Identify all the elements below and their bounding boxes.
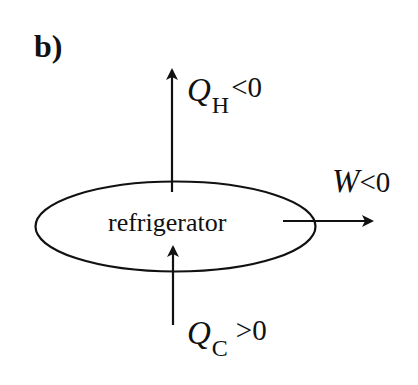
work-label: W<0 bbox=[332, 165, 390, 198]
panel-label: b) bbox=[34, 30, 62, 62]
heat-hot-label: QH<0 bbox=[187, 74, 262, 107]
work-relation: <0 bbox=[360, 166, 391, 198]
work-symbol: W bbox=[332, 163, 360, 199]
heat-hot-symbol: Q bbox=[187, 72, 211, 108]
heat-hot-relation: <0 bbox=[231, 71, 262, 103]
heat-cold-subscript: C bbox=[212, 335, 228, 361]
heat-cold-relation: >0 bbox=[236, 314, 267, 346]
refrigerator-label: refrigerator bbox=[108, 210, 248, 236]
heat-hot-subscript: H bbox=[212, 92, 229, 118]
heat-cold-label: QC>0 bbox=[187, 317, 267, 350]
heat-cold-symbol: Q bbox=[187, 315, 211, 351]
